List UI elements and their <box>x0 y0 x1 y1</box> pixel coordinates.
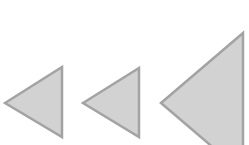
triangle-diagram <box>0 0 249 145</box>
small-left-triangle-icon <box>5 67 62 137</box>
large-left-triangle-icon <box>161 33 243 145</box>
medium-left-triangle-icon <box>83 68 139 137</box>
